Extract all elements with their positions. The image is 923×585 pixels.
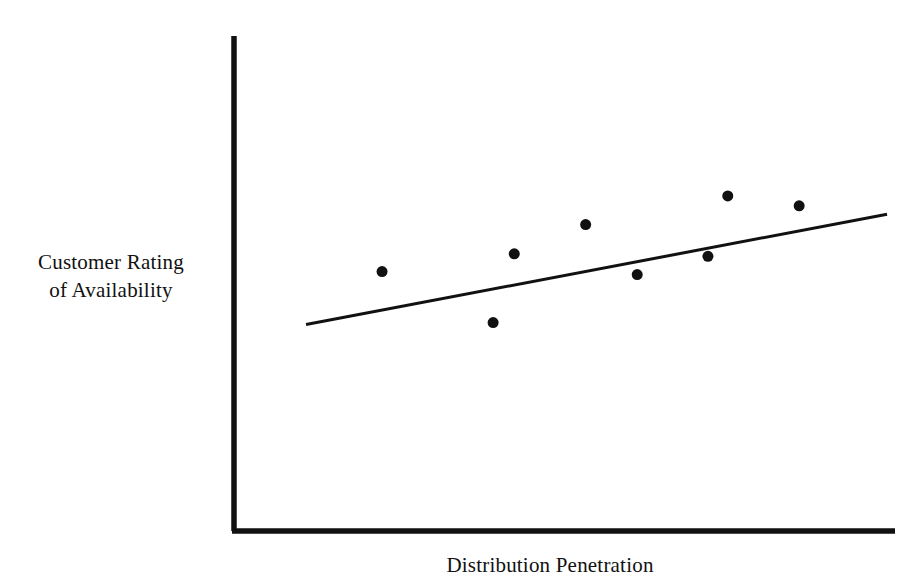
data-point <box>580 219 591 230</box>
data-point <box>509 248 520 259</box>
data-point <box>488 317 499 328</box>
data-point <box>702 251 713 262</box>
y-axis-label-line-2: of Availability <box>0 276 222 304</box>
data-point <box>632 269 643 280</box>
trend-line <box>306 214 887 324</box>
trend-line-group <box>306 214 887 324</box>
data-point <box>794 200 805 211</box>
data-point <box>377 266 388 277</box>
data-points-group <box>377 190 805 328</box>
data-point <box>722 190 733 201</box>
y-axis-label: Customer Rating of Availability <box>0 248 222 304</box>
x-axis-label: Distribution Penetration <box>395 551 705 579</box>
scatter-chart-figure: Customer Rating of Availability Distribu… <box>0 0 923 585</box>
axis-lines <box>232 36 895 531</box>
y-axis-label-line-1: Customer Rating <box>0 248 222 276</box>
